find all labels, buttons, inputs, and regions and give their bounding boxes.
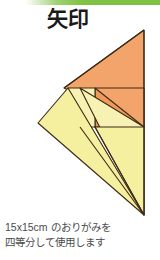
caption-line-2: 四等分して使用します — [5, 235, 155, 250]
caption-line-1: 15x15cm のおりがみを — [5, 220, 155, 235]
green-accent-bar — [0, 0, 160, 5]
origami-arrow-diagram — [0, 22, 160, 220]
page-root: 矢印 15x15cm のおりがみを 四等分し — [0, 0, 160, 260]
caption: 15x15cm のおりがみを 四等分して使用します — [5, 220, 155, 250]
